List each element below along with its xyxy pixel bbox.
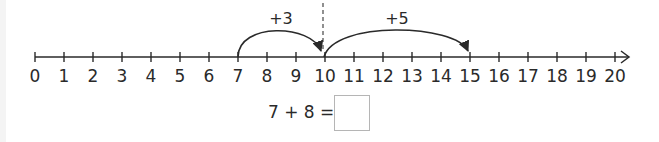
- tick-label-11: 11: [343, 66, 365, 86]
- tick-label-20: 20: [604, 66, 626, 86]
- tick-label-6: 6: [204, 66, 215, 86]
- tick-label-7: 7: [233, 66, 244, 86]
- tick-labels: 01234567891011121314151617181920: [30, 66, 626, 86]
- tick-label-18: 18: [546, 66, 568, 86]
- tick-label-0: 0: [30, 66, 41, 86]
- jump-arc-plus3: [238, 31, 321, 57]
- tick-label-5: 5: [175, 66, 186, 86]
- tick-label-2: 2: [88, 66, 99, 86]
- tick-label-3: 3: [117, 66, 128, 86]
- tick-label-19: 19: [575, 66, 597, 86]
- tick-label-9: 9: [291, 66, 302, 86]
- tick-label-17: 17: [517, 66, 539, 86]
- jump-arc-plus5: [324, 30, 468, 57]
- tick-label-8: 8: [262, 66, 273, 86]
- tick-label-14: 14: [430, 66, 452, 86]
- tick-label-12: 12: [372, 66, 394, 86]
- equation-text: 7 + 8 =: [268, 102, 334, 122]
- tick-label-15: 15: [459, 66, 481, 86]
- tick-label-1: 1: [59, 66, 70, 86]
- tick-label-16: 16: [488, 66, 510, 86]
- jump-label-plus5: +5: [385, 9, 409, 28]
- jump-label-plus3: +3: [269, 9, 293, 28]
- tick-label-13: 13: [401, 66, 423, 86]
- tick-label-4: 4: [146, 66, 157, 86]
- tick-label-10: 10: [314, 66, 336, 86]
- answer-box[interactable]: [334, 95, 370, 131]
